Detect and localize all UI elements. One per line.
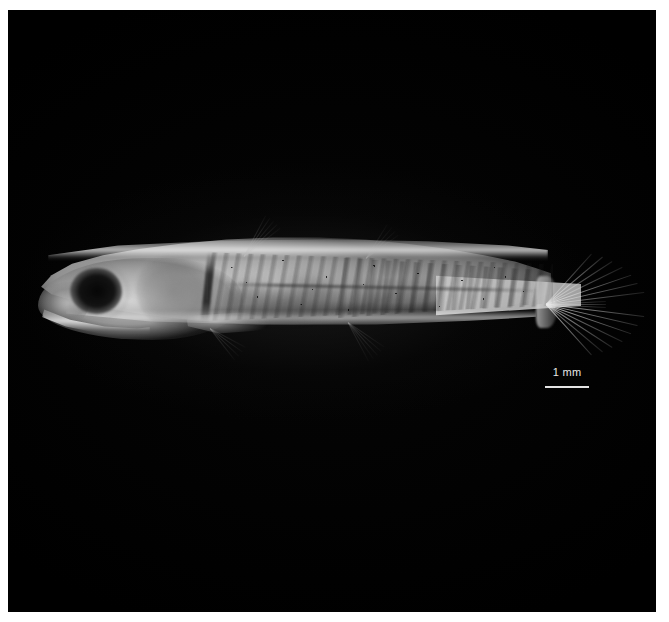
fish-specimen (8, 10, 656, 612)
anal-fin (338, 320, 528, 364)
specimen-photo-plate: 1 mm (8, 10, 656, 612)
caudal-fin (546, 246, 656, 364)
dorsal-fin-posterior (360, 224, 470, 260)
scale-bar: 1 mm (537, 365, 597, 388)
pelvic-fin (204, 326, 314, 360)
photo-frame: 1 mm (0, 0, 669, 622)
scale-bar-label: 1 mm (537, 365, 597, 379)
eye (70, 268, 122, 314)
scale-bar-line (545, 386, 589, 388)
